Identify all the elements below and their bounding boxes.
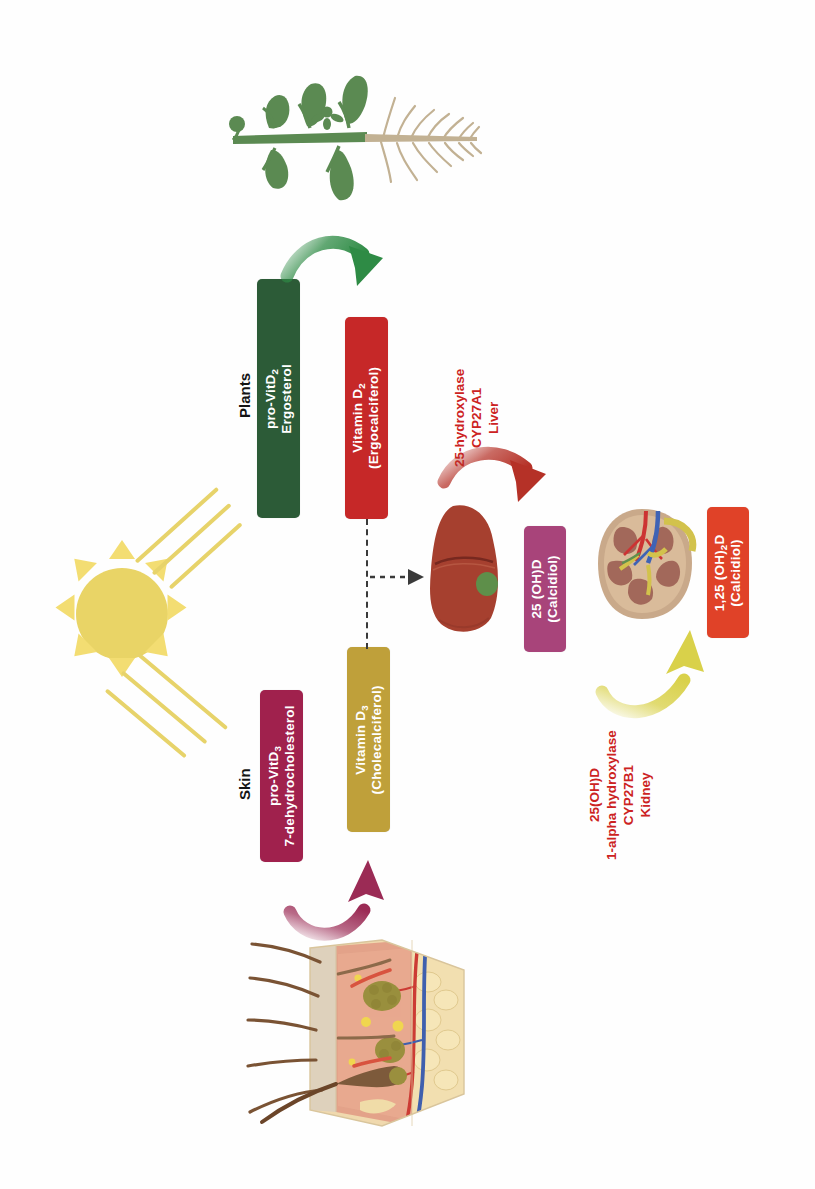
plants-section-label: Plants bbox=[236, 373, 255, 418]
sun-long-ray bbox=[105, 688, 187, 758]
kidney-illustration bbox=[592, 505, 697, 623]
enzyme-label-kidney: 25(OH)D 1-alpha hydroxylase CYP27B1 Kidn… bbox=[587, 730, 655, 860]
green-arrow bbox=[283, 228, 408, 328]
sun-ray-triangle bbox=[168, 595, 187, 621]
liver-illustration bbox=[415, 500, 520, 640]
enzyme-kidney-line3: CYP27B1 bbox=[621, 765, 636, 825]
sun-illustration bbox=[18, 500, 248, 740]
sun-long-ray bbox=[137, 652, 228, 730]
sun-ray-triangle bbox=[56, 595, 75, 621]
enzyme-kidney-line2: 1-alpha hydroxylase bbox=[604, 730, 619, 860]
node-vitamin-d2-label: Vitamin D2 (Ergocalciferol) bbox=[351, 367, 383, 469]
enzyme-kidney-line4: Kidney bbox=[638, 773, 653, 818]
plant-illustration bbox=[215, 62, 490, 212]
node-pro-vitd3-label: pro-VitD3 7-dehydrocholesterol bbox=[266, 705, 298, 846]
sun-long-ray bbox=[121, 670, 208, 744]
enzyme-liver-line2: CYP27A1 bbox=[469, 388, 484, 448]
node-calcitriol-label: 1,25 (OH)2D (Calcidiol) bbox=[712, 534, 744, 611]
node-vitamin-d2[interactable]: Vitamin D2 (Ergocalciferol) bbox=[345, 317, 388, 519]
enzyme-liver-line3: Liver bbox=[486, 402, 501, 434]
sun-ray-triangle bbox=[65, 550, 97, 582]
sun-ray-triangle bbox=[109, 540, 135, 559]
node-pro-vitd3[interactable]: pro-VitD3 7-dehydrocholesterol bbox=[260, 690, 303, 862]
figure-canvas: Plants Skin pro-VitD2 Ergosterol Vitamin… bbox=[0, 0, 815, 1189]
yellow-arrow bbox=[600, 620, 730, 730]
node-vitamin-d3-label: Vitamin D3 (Cholecalciferol) bbox=[353, 685, 385, 794]
node-pro-vitd2-label: pro-VitD2 Ergosterol bbox=[263, 364, 295, 434]
skin-cross-section-illustration bbox=[232, 934, 497, 1134]
sun-long-ray bbox=[169, 522, 243, 589]
node-calcitriol[interactable]: 1,25 (OH)2D (Calcidiol) bbox=[707, 507, 749, 638]
node-vitamin-d3[interactable]: Vitamin D3 (Cholecalciferol) bbox=[347, 647, 390, 832]
enzyme-kidney-line1: 25(OH)D bbox=[587, 768, 602, 822]
node-calcidiol-label: 25 (OH)D (Calcidiol) bbox=[529, 555, 561, 622]
skin-section-label: Skin bbox=[236, 768, 255, 800]
